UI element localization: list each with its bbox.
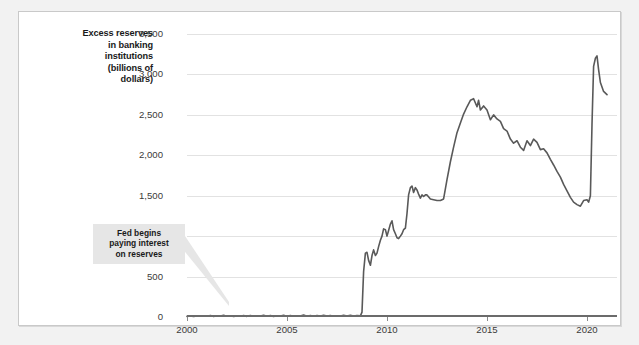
y-axis-tick-label: 1,500	[103, 190, 163, 201]
series-polyline	[187, 56, 607, 317]
figure-root: Excess reserves in banking institutions …	[0, 0, 639, 345]
y-axis-tick-label: 3,000	[103, 68, 163, 79]
x-axis-tick-mark	[587, 317, 588, 321]
y-axis-tick-label: 0	[103, 311, 163, 322]
x-axis-tick-mark	[387, 317, 388, 321]
annotation-callout: Fed begins paying interest on reserves	[93, 224, 185, 264]
x-axis-tick-label: 2005	[276, 324, 297, 335]
y-axis-tick-label: 2,000	[103, 149, 163, 160]
data-series-line	[187, 34, 617, 317]
x-axis-tick-label: 2000	[176, 324, 197, 335]
x-axis-tick-mark	[287, 317, 288, 321]
x-axis-line	[187, 315, 617, 317]
annotation-line-3: on reserves	[96, 249, 182, 259]
y-axis-tick-label: 2,500	[103, 109, 163, 120]
x-axis-tick-label: 2015	[476, 324, 497, 335]
x-axis-tick-label: 2020	[576, 324, 597, 335]
x-axis-tick-mark	[187, 317, 188, 321]
annotation-line-2: paying interest	[96, 238, 182, 248]
chart-panel: Excess reserves in banking institutions …	[18, 11, 621, 326]
x-axis-tick-mark	[487, 317, 488, 321]
y-axis-title-line-3: institutions	[41, 51, 153, 63]
plot-area: 05001,0001,5002,0002,5003,0003,500 20002…	[169, 34, 617, 317]
annotation-line-1: Fed begins	[96, 228, 182, 238]
y-axis-tick-label: 500	[103, 271, 163, 282]
y-axis-title-line-2: in banking	[41, 40, 153, 52]
x-axis-tick-label: 2010	[376, 324, 397, 335]
y-axis-tick-label: 3,500	[103, 28, 163, 39]
